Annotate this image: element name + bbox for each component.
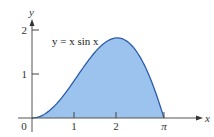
y-axis-label: y bbox=[28, 6, 34, 18]
x-tick-label: π bbox=[161, 120, 167, 132]
x-axis-label: x bbox=[204, 112, 210, 124]
x-tick-label: 2 bbox=[113, 120, 119, 132]
chart: x y 012π 12 y = x sin x bbox=[0, 0, 214, 137]
shaded-area bbox=[32, 38, 164, 118]
x-tick-label: 0 bbox=[21, 120, 27, 132]
x-tick-label: 1 bbox=[71, 120, 77, 132]
y-tick-label: 2 bbox=[22, 24, 28, 36]
function-annotation: y = x sin x bbox=[52, 35, 99, 47]
x-axis-arrow-icon bbox=[196, 116, 203, 121]
y-axis-arrow-icon bbox=[30, 19, 35, 26]
y-ticks: 12 bbox=[22, 24, 40, 80]
y-tick-label: 1 bbox=[22, 68, 28, 80]
